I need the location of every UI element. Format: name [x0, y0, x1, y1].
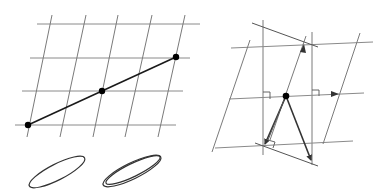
- lattice-slanted-line: [323, 33, 360, 144]
- lattice-point: [173, 54, 179, 60]
- left-lattice-panel: [15, 15, 200, 137]
- grid-slanted-line: [158, 15, 185, 137]
- ellipse-panel: [26, 150, 165, 193]
- grid-slanted-line: [93, 15, 118, 137]
- figure-canvas: [0, 0, 387, 194]
- grid-slanted-line: [27, 15, 52, 137]
- lattice-row-line: [215, 141, 353, 148]
- right-angle-mark: [268, 140, 275, 148]
- center-point: [283, 93, 290, 100]
- grid-slanted-line: [60, 15, 86, 137]
- vector-projection-line: [268, 100, 284, 140]
- diagram-svg: [0, 0, 387, 194]
- ellipse-shape: [26, 151, 89, 193]
- arrowhead-icon: [331, 91, 339, 97]
- right-angle-mark: [263, 92, 270, 99]
- lattice-slanted-line: [212, 40, 250, 152]
- ellipse-shape: [103, 151, 163, 189]
- vector-arrow: [286, 96, 311, 160]
- grid-slanted-line: [125, 15, 152, 137]
- lattice-point: [99, 88, 105, 94]
- lattice-point: [25, 122, 31, 128]
- right-projection-panel: [212, 20, 373, 166]
- diagonal-line: [252, 23, 318, 47]
- lattice-row-line: [229, 93, 364, 99]
